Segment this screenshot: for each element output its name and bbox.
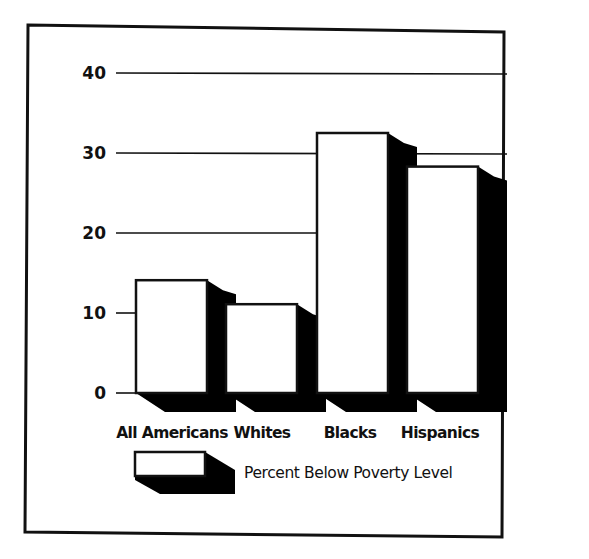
- legend-label: Percent Below Poverty Level: [244, 464, 452, 482]
- y-tick-label: 0: [94, 383, 106, 403]
- category-label: All Americans: [116, 424, 228, 442]
- category-label: Blacks: [324, 424, 377, 442]
- bar-face: [407, 167, 478, 393]
- gridline-40: [116, 73, 507, 74]
- y-tick-label: 30: [82, 143, 106, 163]
- category-label: Hispanics: [401, 424, 480, 442]
- legend: Percent Below Poverty Level: [135, 452, 452, 494]
- bar-whites: [226, 304, 326, 412]
- bar-face: [226, 304, 297, 393]
- y-tick-label: 20: [82, 223, 106, 243]
- bar-face: [317, 133, 388, 393]
- legend-swatch: [135, 452, 205, 476]
- bars: [136, 133, 507, 412]
- bar-face: [136, 280, 207, 393]
- y-axis-ticks: 010203040: [82, 63, 106, 403]
- bar-hispanics: [407, 167, 507, 412]
- bar-blacks: [317, 133, 417, 412]
- y-tick-label: 40: [82, 63, 106, 83]
- y-tick-label: 10: [82, 303, 106, 323]
- poverty-bar-chart: 010203040 All AmericansWhitesBlacksHispa…: [0, 0, 589, 559]
- category-label: Whites: [234, 424, 291, 442]
- bar-all-americans: [136, 280, 236, 412]
- gridline-30: [116, 153, 507, 154]
- category-labels: All AmericansWhitesBlacksHispanics: [116, 424, 479, 442]
